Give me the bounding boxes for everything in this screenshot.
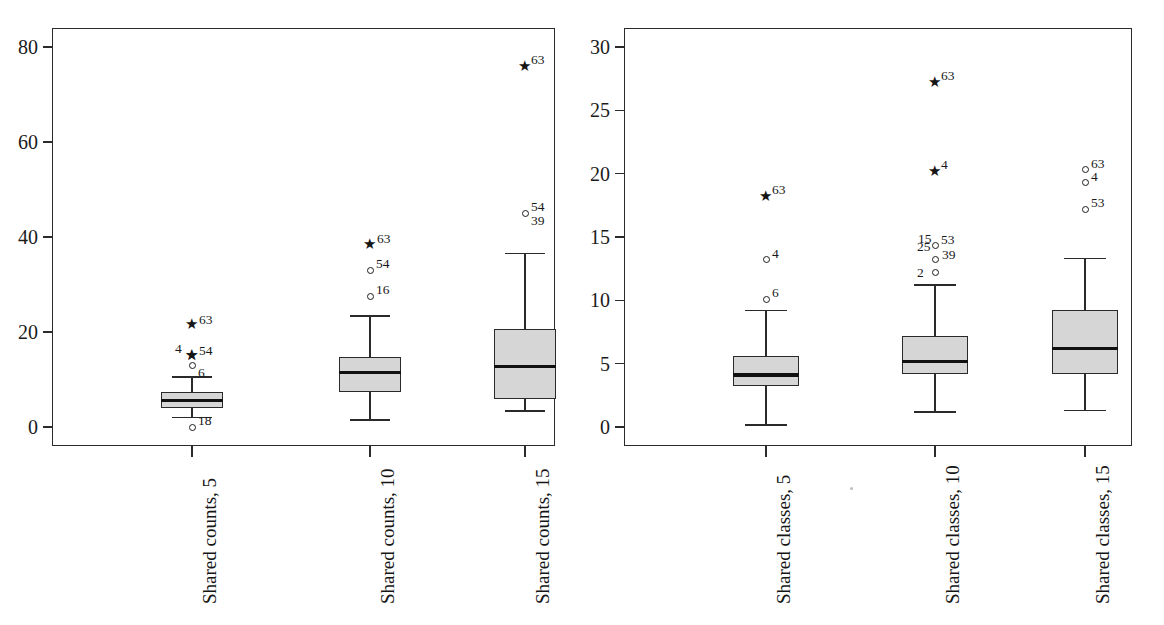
box — [733, 356, 799, 386]
outlier-circle-marker — [763, 296, 770, 303]
median-line — [902, 360, 968, 363]
outlier-label: 4 — [1091, 170, 1098, 184]
outlier-circle-marker — [932, 269, 939, 276]
x-tick-mark — [934, 446, 935, 457]
median-line — [339, 371, 401, 374]
x-category-label: Shared counts, 15 — [533, 468, 552, 604]
x-category-label: Shared classes, 15 — [1093, 465, 1112, 604]
outlier-label: 39 — [942, 248, 956, 262]
outlier-label: 39 — [531, 214, 545, 228]
x-category-label: Shared counts, 5 — [200, 478, 219, 604]
y-tick-label: 60 — [0, 132, 38, 152]
box — [1052, 310, 1118, 373]
median-line — [161, 399, 223, 402]
outlier-circle-marker — [1082, 166, 1089, 173]
y-tick-mark — [615, 426, 624, 427]
y-tick-label: 40 — [0, 227, 38, 247]
outlier-star-marker: ★ — [759, 189, 772, 204]
whisker-cap-lower — [914, 411, 956, 413]
y-tick-label: 5 — [566, 354, 610, 374]
y-tick-mark — [615, 173, 624, 174]
median-line — [494, 365, 556, 368]
outlier-label: 6 — [198, 366, 205, 380]
whisker-cap-upper — [1064, 258, 1106, 260]
whisker-upper — [934, 285, 936, 336]
whisker-cap-lower — [505, 410, 545, 412]
outlier-circle-marker — [1082, 206, 1089, 213]
outlier-label: 16 — [376, 283, 390, 297]
outlier-label: 54 — [376, 257, 390, 271]
y-tick-mark — [615, 236, 624, 237]
scan-speck — [850, 487, 853, 490]
outlier-label: 63 — [772, 183, 786, 197]
y-tick-mark — [615, 110, 624, 111]
outlier-label: 54 — [531, 200, 545, 214]
whisker-upper — [524, 254, 526, 329]
outlier-label: 63 — [531, 53, 545, 67]
outlier-label: 25 — [917, 240, 931, 254]
y-tick-mark — [43, 141, 52, 142]
x-tick-mark — [524, 446, 525, 457]
outlier-label: 53 — [1091, 196, 1105, 210]
y-tick-mark — [615, 46, 624, 47]
x-tick-mark — [765, 446, 766, 457]
y-tick-label: 15 — [566, 227, 610, 247]
whisker-cap-upper — [172, 376, 212, 378]
whisker-upper — [369, 316, 371, 357]
whisker-lower — [934, 374, 936, 412]
x-tick-mark — [191, 446, 192, 457]
boxplot-figure: 020406080 ★63★54★4618★635416★635439 Shar… — [0, 0, 1164, 625]
whisker-lower — [765, 386, 767, 425]
outlier-circle-marker — [1082, 179, 1089, 186]
x-category-label: Shared classes, 5 — [774, 475, 793, 604]
box — [902, 336, 968, 374]
outlier-star-marker: ★ — [363, 237, 376, 252]
plot-frame-left — [52, 28, 555, 446]
outlier-label: 4 — [175, 342, 182, 356]
y-tick-label: 20 — [0, 322, 38, 342]
box — [339, 357, 401, 392]
y-tick-mark — [615, 363, 624, 364]
y-tick-label: 0 — [0, 417, 38, 437]
whisker-cap-lower — [350, 419, 390, 421]
y-tick-label: 80 — [0, 37, 38, 57]
x-tick-mark — [369, 446, 370, 457]
outlier-circle-marker — [932, 256, 939, 263]
whisker-cap-lower — [745, 424, 787, 426]
outlier-circle-marker — [189, 424, 196, 431]
outlier-circle-marker — [367, 293, 374, 300]
outlier-label: 63 — [941, 69, 955, 83]
whisker-upper — [765, 310, 767, 356]
outlier-circle-marker — [932, 242, 939, 249]
outlier-label: 63 — [377, 232, 391, 246]
y-tick-mark — [43, 236, 52, 237]
whisker-cap-upper — [505, 253, 545, 255]
y-tick-label: 0 — [566, 417, 610, 437]
median-line — [1052, 347, 1118, 350]
outlier-label: 18 — [198, 414, 212, 428]
y-tick-mark — [615, 300, 624, 301]
outlier-label: 54 — [199, 344, 213, 358]
whisker-cap-upper — [745, 310, 787, 312]
outlier-label: 6 — [772, 286, 779, 300]
y-tick-label: 25 — [566, 100, 610, 120]
outlier-circle-marker — [522, 210, 529, 217]
whisker-upper — [1084, 259, 1086, 311]
outlier-label: 2 — [917, 266, 924, 280]
outlier-star-marker: ★ — [185, 317, 198, 332]
outlier-label: 53 — [941, 233, 955, 247]
x-tick-mark — [1084, 446, 1085, 457]
whisker-cap-lower — [1064, 410, 1106, 412]
y-tick-mark — [43, 426, 52, 427]
outlier-circle-marker — [189, 362, 196, 369]
outlier-star-marker: ★ — [518, 59, 531, 74]
y-tick-label: 10 — [566, 290, 610, 310]
shared-classes-panel: 051015202530 ★6346★63★453152539263453 Sh… — [582, 0, 1164, 625]
whisker-lower — [369, 392, 371, 420]
outlier-label: 4 — [772, 247, 779, 261]
whisker-lower — [1084, 374, 1086, 411]
shared-counts-panel: 020406080 ★63★54★4618★635416★635439 Shar… — [0, 0, 582, 625]
plot-frame-right — [624, 28, 1132, 446]
y-tick-label: 20 — [566, 164, 610, 184]
outlier-star-marker: ★ — [928, 75, 941, 90]
